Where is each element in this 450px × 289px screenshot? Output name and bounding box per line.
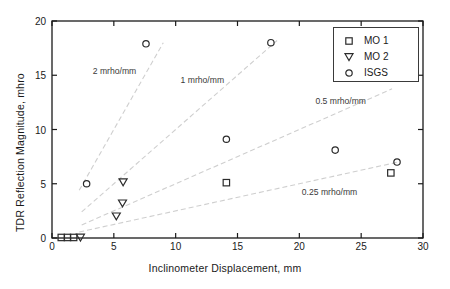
data-point-isgs (223, 136, 229, 142)
slope-annotation-1: 1 mrho/mm (181, 75, 224, 85)
data-point-mo-1 (223, 179, 229, 185)
slope-annotation-3: 0.25 mrho/mm (302, 187, 357, 197)
square-open-icon (334, 34, 364, 48)
data-point-mo-1 (388, 170, 394, 176)
x-tick-label: 25 (356, 241, 367, 252)
data-point-isgs (83, 181, 89, 187)
data-point-mo-2 (112, 213, 120, 220)
data-point-isgs (332, 147, 338, 153)
data-point-isgs (143, 41, 149, 47)
y-tick-label: 5 (24, 178, 46, 189)
triangle-down-open-icon (334, 50, 364, 64)
x-tick-label: 5 (111, 241, 117, 252)
y-axis-title: TDR Reflection Magnitude, mhro (14, 73, 26, 232)
legend-box[interactable]: MO 1MO 2ISGS (333, 27, 419, 82)
x-tick-label: 30 (417, 241, 428, 252)
reference-line-2 (82, 89, 392, 225)
legend-label: MO 1 (364, 35, 388, 46)
slope-annotation-2: 0.5 mrho/mm (315, 96, 366, 106)
slope-annotation-0: 2 mrho/mm (93, 66, 136, 76)
y-tick-label: 15 (24, 70, 46, 81)
legend-item-mo-2[interactable]: MO 2 (334, 48, 418, 65)
x-axis-title: Inclinometer Displacement, mm (0, 262, 450, 274)
y-tick-label: 20 (24, 16, 46, 27)
x-tick-label: 15 (232, 241, 243, 252)
legend-item-isgs[interactable]: ISGS (334, 64, 418, 81)
data-point-mo-2 (118, 200, 126, 207)
y-tick-label: 0 (24, 233, 46, 244)
data-point-mo-2 (119, 179, 127, 186)
circle-open-icon (334, 66, 364, 80)
legend-label: ISGS (364, 67, 388, 78)
reference-line-0 (79, 43, 163, 191)
legend-item-mo-1[interactable]: MO 1 (334, 32, 418, 49)
data-point-isgs (394, 159, 400, 165)
x-tick-label: 20 (294, 241, 305, 252)
chart-figure: Inclinometer Displacement, mm TDR Reflec… (0, 0, 450, 289)
y-tick-label: 10 (24, 124, 46, 135)
data-point-isgs (268, 40, 274, 46)
x-tick-label: 10 (170, 241, 181, 252)
legend-label: MO 2 (364, 51, 388, 62)
x-tick-label: 0 (49, 241, 55, 252)
